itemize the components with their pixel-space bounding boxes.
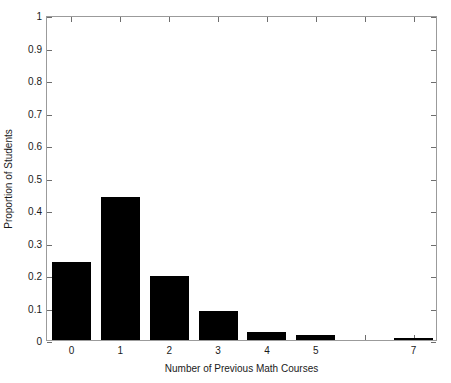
x-axis-tick-label: 7 [411,345,417,356]
x-axis-tick-label: 2 [166,345,172,356]
x-axis-tick-label: 1 [118,345,124,356]
x-axis-title: Number of Previous Math Courses [46,363,437,375]
bar [150,276,189,340]
bar [101,197,140,340]
bars-layer [47,17,436,340]
y-axis-tick-label: 0.7 [28,110,42,120]
bar [52,262,91,340]
x-axis-tick-label: 4 [264,345,270,356]
y-axis-tick-label: 0.9 [28,45,42,55]
bar-chart-figure: 00.10.20.30.40.50.60.70.80.91 0123457 Pr… [0,0,451,383]
y-axis-title-text: Proportion of Students [3,129,15,229]
y-axis-tick-label: 0.1 [28,305,42,315]
bar [247,332,286,340]
y-axis-tick-label: 0.3 [28,240,42,250]
bar [394,338,433,340]
y-axis-tick-label: 1 [36,12,42,22]
y-axis-tick [47,342,52,343]
y-axis-tick [431,342,436,343]
y-axis-title: Proportion of Students [2,16,16,341]
bar [296,335,335,340]
y-axis-tick-label: 0.5 [28,175,42,185]
y-axis-tick-label: 0.6 [28,142,42,152]
y-axis-tick-label: 0 [36,337,42,347]
x-axis-tick-label: 0 [69,345,75,356]
plot-area: 00.10.20.30.40.50.60.70.80.91 0123457 [46,16,437,341]
y-axis-tick-label: 0.4 [28,207,42,217]
x-axis-title-text: Number of Previous Math Courses [165,363,318,374]
y-axis-tick-label: 0.8 [28,77,42,87]
x-axis-tick-label: 5 [313,345,319,356]
bar [199,311,238,340]
x-axis-tick-label: 3 [215,345,221,356]
y-axis-tick-label: 0.2 [28,272,42,282]
